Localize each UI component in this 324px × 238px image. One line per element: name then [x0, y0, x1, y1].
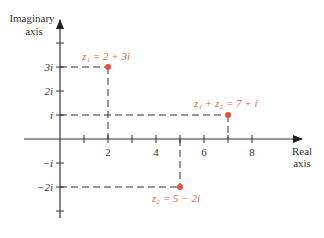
imaginary-axis-label: Imaginary	[9, 12, 55, 24]
y-tick-label: −i	[43, 157, 53, 169]
y-tick-label: −2i	[37, 181, 53, 193]
x-tick-label: 8	[249, 146, 255, 158]
x-tick-label: 2	[105, 146, 111, 158]
complex-plane-diagram: 2 4 6 8 3i 2i i −i −2i Imaginary axis Re…	[0, 0, 324, 238]
imaginary-axis-label-2: axis	[25, 25, 43, 37]
label-z1-plus-z2: z₁ + z₂ = 7 + i	[193, 97, 258, 109]
real-axis-label-2: axis	[293, 157, 311, 169]
x-tick-label: 4	[153, 146, 159, 158]
point-z1	[105, 64, 111, 70]
point-z1-plus-z2	[225, 112, 231, 118]
y-tick-label: i	[50, 109, 53, 121]
point-z2	[177, 184, 183, 190]
label-z1: z₁ = 2 + 3i	[81, 50, 130, 62]
y-tick-label: 2i	[44, 85, 53, 97]
label-z2: z₂ = 5 − 2i	[151, 192, 200, 204]
x-tick-label: 6	[201, 146, 207, 158]
dashed-guides	[60, 67, 228, 187]
y-tick-label: 3i	[43, 61, 53, 73]
real-axis-label: Real	[292, 145, 312, 157]
